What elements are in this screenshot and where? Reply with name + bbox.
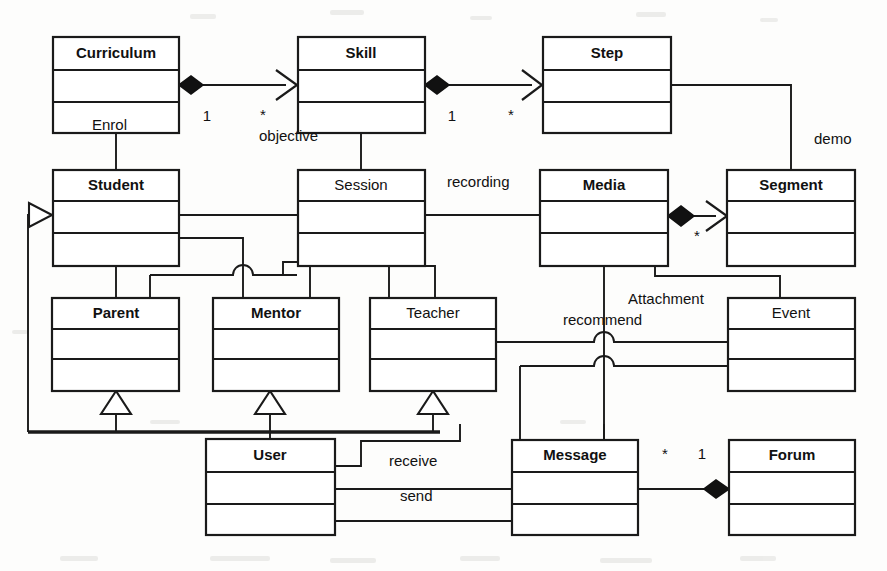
- edge-skill-step: [425, 70, 542, 100]
- class-node-parent[interactable]: Parent: [52, 298, 179, 391]
- edge-step-segment: [671, 85, 791, 170]
- edge-label-receive: receive: [389, 452, 437, 469]
- edge-label-recording: recording: [447, 173, 510, 190]
- generalization-triangle-teacher: [418, 391, 448, 414]
- class-node-forum[interactable]: Forum: [729, 440, 855, 535]
- class-title-step: Step: [591, 44, 624, 61]
- edge-label-demo: demo: [814, 130, 852, 147]
- edge-message-forum: [638, 480, 729, 498]
- edge-label-objective: objective: [259, 127, 318, 144]
- class-node-media[interactable]: Media: [540, 170, 668, 266]
- class-node-event[interactable]: Event: [728, 298, 855, 391]
- class-title-event: Event: [772, 304, 811, 321]
- edge-label-attachment: Attachment: [628, 290, 705, 307]
- class-node-teacher[interactable]: Teacher: [370, 298, 496, 391]
- multiplicity-media-segment-target: *: [694, 227, 700, 244]
- edge-label-send: send: [400, 487, 433, 504]
- edge-lower-event: [520, 356, 728, 440]
- class-node-segment[interactable]: Segment: [727, 170, 855, 266]
- multiplicity-curriculum-skill-target: *: [260, 106, 266, 123]
- class-title-media: Media: [583, 176, 626, 193]
- edge-session-teacher: [389, 266, 435, 298]
- multiplicity-skill-step-source: 1: [448, 107, 456, 124]
- uml-class-diagram: Curriculum Skill Step Student: [0, 0, 887, 571]
- class-node-step[interactable]: Step: [543, 37, 671, 133]
- multiplicity-curriculum-skill-source: 1: [203, 107, 211, 124]
- generalization-stubs: [116, 412, 433, 439]
- class-title-user: User: [253, 446, 287, 463]
- class-title-message: Message: [543, 446, 606, 463]
- generalization-triangle-mentor: [255, 391, 285, 414]
- edge-label-recommend: recommend: [563, 311, 642, 328]
- class-title-forum: Forum: [769, 446, 816, 463]
- edge-curriculum-skill: [179, 70, 297, 100]
- class-node-user[interactable]: User: [206, 439, 335, 535]
- edge-label-enrol: Enrol: [92, 116, 127, 133]
- class-title-teacher: Teacher: [406, 304, 459, 321]
- multiplicity-message-forum-target: 1: [698, 445, 706, 462]
- multiplicity-skill-step-target: *: [508, 106, 514, 123]
- edge-session-mentor: [283, 262, 310, 298]
- class-title-parent: Parent: [93, 304, 140, 321]
- multiplicity-message-forum-source: *: [662, 445, 668, 462]
- class-title-segment: Segment: [759, 176, 822, 193]
- class-title-curriculum: Curriculum: [76, 44, 156, 61]
- class-node-session[interactable]: Session: [298, 170, 425, 266]
- class-title-mentor: Mentor: [251, 304, 301, 321]
- class-title-skill: Skill: [346, 44, 377, 61]
- class-node-message[interactable]: Message: [512, 440, 638, 535]
- edge-teacher-event: [496, 332, 728, 342]
- diagram-canvas: Curriculum Skill Step Student: [0, 0, 887, 571]
- class-node-skill[interactable]: Skill: [298, 37, 425, 133]
- edge-user-student: [28, 203, 52, 432]
- class-node-student[interactable]: Student: [53, 170, 179, 266]
- class-title-student: Student: [88, 176, 144, 193]
- class-title-session: Session: [334, 176, 387, 193]
- class-node-mentor[interactable]: Mentor: [213, 298, 339, 391]
- generalization-triangle-parent: [101, 391, 131, 414]
